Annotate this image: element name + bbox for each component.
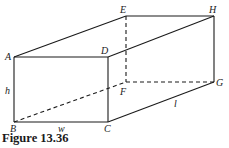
dimension-label-height: h	[5, 85, 10, 96]
vertex-label-e: E	[119, 4, 126, 15]
vertex-label-f: F	[119, 86, 127, 97]
edge-ae	[14, 16, 126, 57]
cuboid-diagram: A D E H F G B C h w l	[0, 0, 229, 148]
hidden-edge-bf	[14, 82, 126, 122]
vertex-label-g: G	[216, 77, 223, 88]
edge-dh	[108, 16, 214, 57]
vertex-label-d: D	[100, 45, 109, 56]
vertex-label-h: H	[208, 4, 217, 15]
figure-caption: Figure 13.36	[2, 131, 68, 146]
vertex-label-c: C	[104, 123, 111, 134]
dimension-label-length: l	[174, 98, 177, 109]
vertex-label-a: A	[4, 51, 12, 62]
